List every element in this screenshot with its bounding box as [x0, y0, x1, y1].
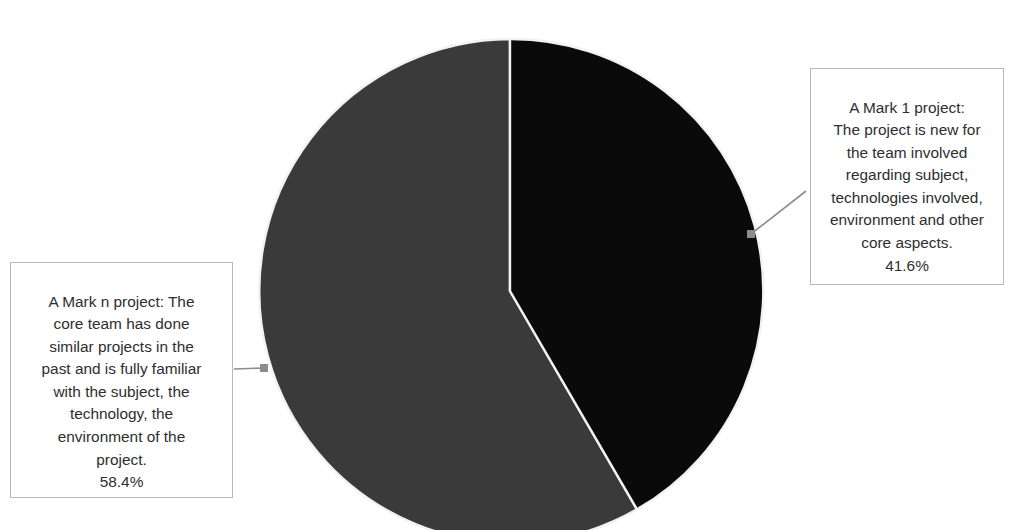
callout-mark-1-percent: 41.6%	[818, 255, 996, 278]
callout-mark-n-project[interactable]: A Mark n project: The core team has done…	[10, 262, 233, 498]
leader-line-mark-1	[751, 191, 806, 234]
callout-mark-n-percent: 58.4%	[18, 471, 225, 494]
callout-mark-1-text: A Mark 1 project: The project is new for…	[830, 99, 984, 251]
callout-mark-1-project[interactable]: A Mark 1 project: The project is new for…	[810, 68, 1004, 285]
leader-line-mark-n	[234, 368, 264, 369]
leader-endpoint-mark-n	[260, 364, 268, 372]
pie-chart-figure: A Mark 1 project: The project is new for…	[0, 0, 1015, 530]
leader-endpoint-mark-1	[747, 230, 755, 238]
callout-mark-n-text: A Mark n project: The core team has done…	[42, 293, 202, 468]
